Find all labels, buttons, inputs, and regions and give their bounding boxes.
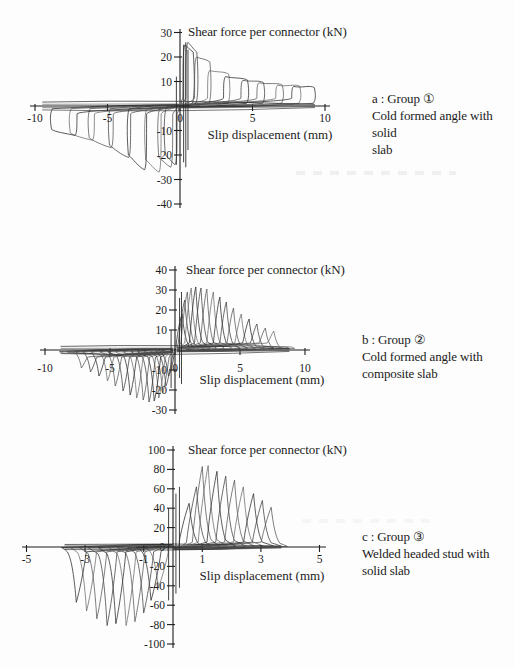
x-tick-label: 5 (250, 112, 256, 124)
figure-page: -10-50510302010-10-20-30-40Shear force p… (0, 0, 515, 668)
caption-group-1-title: a : Group ① (372, 90, 515, 107)
y-tick-label: 30 (161, 27, 173, 39)
caption-group-2: b : Group ② Cold formed angle with compo… (362, 331, 512, 382)
caption-group-1: a : Group ① Cold formed angle with solid… (372, 90, 515, 158)
y-tick-label: 80 (154, 463, 166, 475)
caption-group-3-line3: solid slab (362, 562, 512, 579)
x-axis-label: Slip displacement (mm) (200, 568, 325, 583)
y-tick-label: 100 (148, 444, 166, 456)
x-tick-label: 3 (258, 553, 264, 565)
y-tick-label: 20 (161, 51, 173, 63)
x-tick-label: 1 (199, 553, 205, 565)
x-tick-label: 5 (317, 553, 323, 565)
caption-group-2-line3: composite slab (362, 365, 512, 382)
hysteresis-loop (174, 466, 227, 550)
y-tick-label: 40 (154, 502, 166, 514)
x-axis-label: Slip displacement (mm) (208, 127, 333, 142)
y-tick-label: -40 (157, 198, 173, 210)
chart-title: Shear force per connector (kN) (188, 24, 347, 39)
hysteresis-loops (42, 42, 315, 172)
y-tick-label: 30 (156, 284, 168, 296)
caption-group-3: c : Group ③ Welded headed stud with soli… (362, 528, 512, 579)
y-tick-label: -60 (150, 599, 166, 611)
x-tick-label: 0 (172, 362, 178, 374)
x-tick-label: -5 (22, 553, 32, 565)
x-axis-label: Slip displacement (mm) (200, 372, 325, 387)
caption-group-1-line3: slab (372, 141, 515, 158)
caption-group-2-line2: Cold formed angle with (362, 348, 512, 365)
caption-group-3-title: c : Group ③ (362, 528, 512, 545)
chart-c: -5-3-1135100806040200-20-40-60-80-100She… (22, 442, 347, 651)
y-tick-label: -100 (144, 638, 165, 650)
chart-b: -10-5051040302010-10-20-30Shear force pe… (37, 262, 344, 417)
y-tick-label: 40 (156, 264, 168, 276)
chart-title: Shear force per connector (kN) (186, 262, 345, 277)
x-tick-label: -10 (37, 362, 53, 374)
x-tick-label: 10 (319, 112, 331, 124)
x-tick-label: -5 (103, 112, 113, 124)
scan-artifact (296, 171, 456, 175)
y-tick-label: 10 (156, 324, 168, 336)
chart-a: -10-50510302010-10-20-30-40Shear force p… (27, 24, 346, 210)
y-tick-label: 10 (161, 76, 173, 88)
hysteresis-loop (174, 466, 220, 549)
hysteresis-loops (62, 466, 288, 626)
x-tick-label: -10 (27, 112, 43, 124)
x-tick-label: 0 (177, 112, 183, 124)
hysteresis-loop (145, 105, 179, 172)
caption-group-2-title: b : Group ② (362, 331, 512, 348)
y-tick-label: 20 (154, 522, 166, 534)
chart-title: Shear force per connector (kN) (188, 442, 347, 457)
hysteresis-loop (174, 480, 255, 549)
y-tick-label: -30 (157, 174, 173, 186)
y-tick-label: -80 (150, 619, 166, 631)
y-tick-label: 60 (154, 483, 166, 495)
hysteresis-loop (182, 42, 198, 107)
caption-group-3-line2: Welded headed stud with (362, 545, 512, 562)
y-tick-label: 20 (156, 304, 168, 316)
scan-artifact (302, 519, 432, 523)
caption-group-1-line2: Cold formed angle with solid (372, 107, 515, 141)
y-tick-label: -30 (152, 404, 168, 416)
